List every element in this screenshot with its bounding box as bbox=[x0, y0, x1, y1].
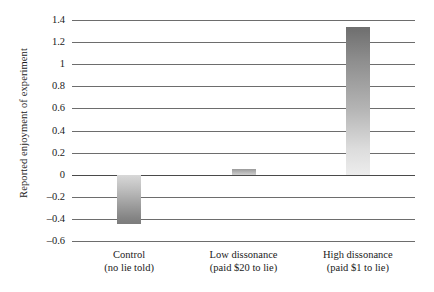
bar-chart-figure: Reported enjoyment of experiment 1.41.21… bbox=[0, 0, 434, 292]
y-axis-title: Reported enjoyment of experiment bbox=[18, 0, 32, 248]
y-axis-tick-label: 1.2 bbox=[52, 37, 65, 48]
y-axis-tick-label: –0.6 bbox=[47, 236, 65, 247]
y-axis-tick-label: –0.2 bbox=[47, 192, 65, 203]
plot-area: 1.41.210.80.60.40.20–0.2–0.4–0.6 bbox=[72, 20, 415, 241]
category-label-line1: High dissonance bbox=[283, 249, 433, 262]
y-axis-tick-label: 0 bbox=[60, 169, 65, 180]
y-axis-tick-label: 0.8 bbox=[52, 81, 65, 92]
bar-0 bbox=[117, 175, 141, 225]
y-axis-tick-label: 0.6 bbox=[52, 103, 65, 114]
bar-1 bbox=[232, 169, 256, 175]
y-axis-tick-label: –0.4 bbox=[47, 214, 65, 225]
y-axis-tick-label: 1 bbox=[60, 59, 65, 70]
y-axis-tick-label: 0.4 bbox=[52, 125, 65, 136]
bar-2 bbox=[346, 27, 370, 175]
y-axis-tick-label: 1.4 bbox=[52, 15, 65, 26]
x-axis-category-label-2: High dissonance (paid $1 to lie) bbox=[283, 249, 433, 274]
gridline: –0.6 bbox=[72, 241, 415, 242]
y-axis-tick-label: 0.2 bbox=[52, 147, 65, 158]
gridline: 1.4 bbox=[72, 20, 415, 21]
category-label-line2: (paid $1 to lie) bbox=[283, 262, 433, 275]
